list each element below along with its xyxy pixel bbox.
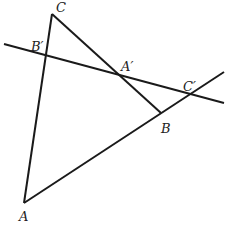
label-A: A — [18, 209, 28, 224]
geometry-diagram: CB′A′C′BA — [0, 0, 228, 226]
label-B-prime: B′ — [30, 39, 44, 54]
label-C: C — [56, 0, 66, 15]
side-CB — [52, 14, 161, 113]
label-A-prime: A′ — [120, 59, 133, 74]
label-B: B — [160, 121, 171, 136]
label-C-prime: C′ — [183, 79, 196, 94]
diagram-svg: CB′A′C′BA — [0, 0, 228, 226]
